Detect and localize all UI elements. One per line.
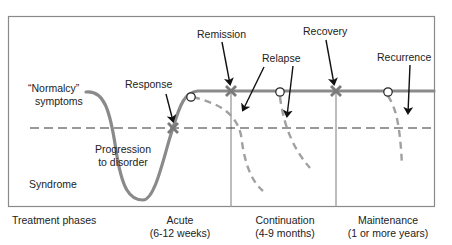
recurrence-start-marker bbox=[384, 88, 392, 96]
phase-acute-duration: (6-12 weeks) bbox=[140, 227, 220, 239]
remission-label: Remission bbox=[197, 28, 246, 40]
phase-maintenance-duration: (1 or more years) bbox=[338, 227, 438, 239]
response-label: Response bbox=[125, 78, 172, 90]
relapse-start-marker-2 bbox=[276, 88, 284, 96]
normalcy-label-line2: symptoms bbox=[35, 95, 83, 107]
recurrence-label: Recurrence bbox=[377, 51, 431, 63]
recovery-label: Recovery bbox=[303, 25, 347, 37]
progression-label-line1: Progression bbox=[86, 143, 160, 155]
phase-continuation-duration: (4-9 months) bbox=[240, 227, 330, 239]
treatment-phases-title: Treatment phases bbox=[12, 214, 96, 226]
normalcy-label-line1: “Normalcy” bbox=[28, 82, 79, 94]
phase-acute-name: Acute bbox=[140, 214, 220, 226]
relapse-label: Relapse bbox=[262, 52, 301, 64]
syndrome-label: Syndrome bbox=[29, 178, 77, 190]
progression-label-line2: to disorder bbox=[86, 156, 160, 168]
relapse-start-marker-1 bbox=[187, 93, 195, 101]
phase-maintenance-name: Maintenance bbox=[338, 214, 438, 226]
diagram: “Normalcy” symptoms Syndrome Progression… bbox=[0, 0, 452, 245]
phase-continuation-name: Continuation bbox=[240, 214, 330, 226]
